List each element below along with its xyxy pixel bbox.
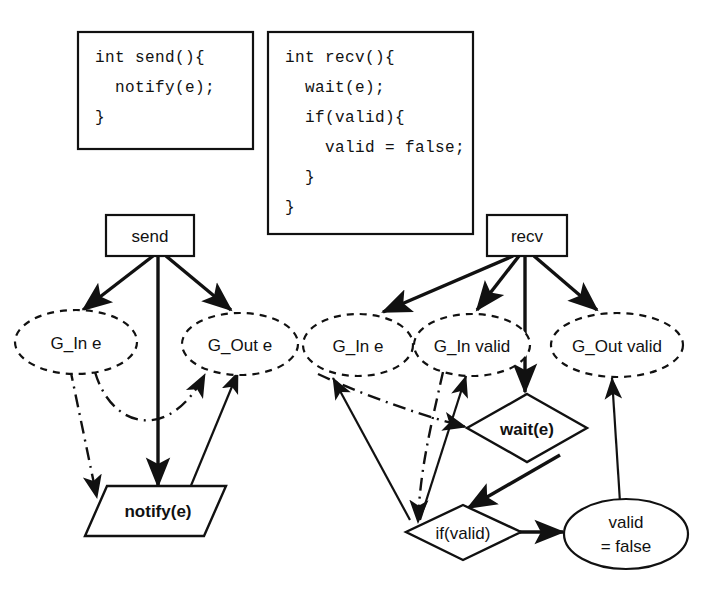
edge-send-to-g-in-e <box>83 256 153 310</box>
node-g-in-e-right-label: G_In e <box>332 337 383 356</box>
node-send[interactable]: send <box>106 215 194 256</box>
node-notify-label: notify(e) <box>124 502 191 521</box>
edge-recv-to-g-out-valid <box>534 256 597 310</box>
node-wait-label: wait(e) <box>499 420 554 439</box>
node-valid-false-border <box>564 499 688 569</box>
edge-valid-false-to-g-out-valid <box>612 378 620 502</box>
node-recv-label: recv <box>511 227 544 246</box>
recv-code-line-3: if(valid){ <box>285 109 405 127</box>
recv-code-line-1: int recv(){ <box>285 49 395 67</box>
send-code-box: int send(){ notify(e); } <box>78 32 253 149</box>
node-g-out-valid-label: G_Out valid <box>572 337 662 356</box>
edge-send-to-g-out-e <box>166 256 231 310</box>
recv-code-line-4: valid = false; <box>285 139 465 157</box>
edge-g-in-valid-to-if-valid <box>418 372 443 523</box>
send-code-line-3: } <box>95 109 105 127</box>
diagram-canvas: int send(){ notify(e); } int recv(){ wai… <box>0 0 720 597</box>
node-g-out-e[interactable]: G_Out e <box>182 313 298 375</box>
edge-if-valid-to-g-in-e-right <box>333 378 410 520</box>
send-code-line-1: int send(){ <box>95 49 205 67</box>
node-g-in-valid-label: G_In valid <box>434 337 511 356</box>
node-if-valid-label: if(valid) <box>436 524 491 543</box>
node-valid-false-label-line2: = false <box>601 537 652 556</box>
edge-g-in-e-to-notify <box>70 368 97 498</box>
node-valid-false-label-line1: valid <box>609 513 644 532</box>
node-g-out-e-label: G_Out e <box>208 336 272 355</box>
node-g-in-valid[interactable]: G_In valid <box>414 314 530 376</box>
edge-g-in-e-to-g-out-e <box>95 372 205 420</box>
recv-code-line-6: } <box>285 199 295 217</box>
node-send-label: send <box>132 227 169 246</box>
node-valid-false[interactable]: valid = false <box>564 499 688 569</box>
recv-code-line-5: } <box>285 169 315 187</box>
recv-code-line-2: wait(e); <box>285 79 385 97</box>
node-g-in-e-right[interactable]: G_In e <box>303 314 413 376</box>
edge-g-in-e-right-to-wait <box>318 374 466 427</box>
node-wait[interactable]: wait(e) <box>467 394 587 462</box>
edge-wait-to-if-valid <box>468 455 560 508</box>
node-g-out-valid[interactable]: G_Out valid <box>551 313 683 377</box>
node-g-in-e-left[interactable]: G_In e <box>15 310 137 374</box>
edge-if-valid-to-g-in-valid <box>420 376 466 520</box>
node-g-in-e-left-label: G_In e <box>50 334 101 353</box>
recv-code-box: int recv(){ wait(e); if(valid){ valid = … <box>268 32 473 234</box>
node-notify[interactable]: notify(e) <box>85 486 226 536</box>
node-recv[interactable]: recv <box>487 215 567 256</box>
edge-recv-to-g-in-e <box>383 256 513 312</box>
send-code-line-2: notify(e); <box>95 79 215 97</box>
